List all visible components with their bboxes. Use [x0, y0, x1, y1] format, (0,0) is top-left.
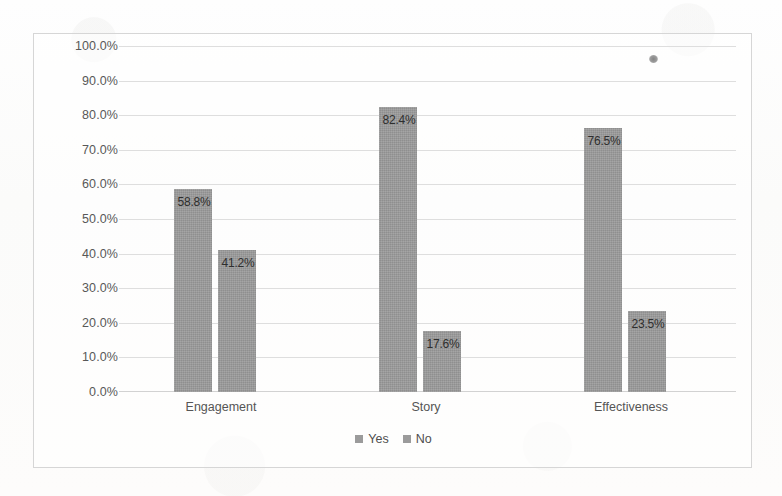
bar-effectiveness-yes[interactable]: 76.5%	[584, 128, 622, 392]
bar-group-effectiveness: 76.5% 23.5%	[529, 46, 734, 392]
x-axis-category-label: Engagement	[131, 400, 311, 414]
y-axis-tick-label: 70.0%	[42, 143, 118, 157]
x-axis-category-label: Story	[336, 400, 516, 414]
chart-container: 100.0% 90.0% 80.0% 70.0% 60.0% 50.0% 40.…	[33, 33, 752, 468]
legend-item-yes[interactable]: Yes	[355, 432, 388, 446]
bars-layer: 58.8% 41.2% 82.4% 17.6% 76	[119, 46, 736, 392]
y-axis-tick-label: 0.0%	[42, 385, 118, 399]
chart-legend: Yes No	[34, 432, 753, 446]
y-axis-tick-label: 90.0%	[42, 74, 118, 88]
bar-engagement-yes[interactable]: 58.8%	[174, 189, 212, 392]
bar-story-no[interactable]: 17.6%	[423, 331, 461, 392]
y-axis-tick-label: 100.0%	[42, 39, 118, 53]
plot-area: 58.8% 41.2% 82.4% 17.6% 76	[119, 46, 736, 392]
y-axis-tick-label: 60.0%	[42, 177, 118, 191]
y-axis-tick-label: 30.0%	[42, 281, 118, 295]
bar-value-label: 17.6%	[421, 337, 465, 351]
bar-story-yes[interactable]: 82.4%	[379, 107, 417, 392]
legend-item-label: Yes	[368, 432, 388, 446]
bar-group-engagement: 58.8% 41.2%	[119, 46, 324, 392]
y-axis-tick-label: 80.0%	[42, 108, 118, 122]
y-axis-tick-label: 20.0%	[42, 316, 118, 330]
legend-swatch-icon	[355, 435, 363, 443]
x-axis-category-label: Effectiveness	[541, 400, 721, 414]
legend-item-no[interactable]: No	[403, 432, 432, 446]
bar-value-label: 82.4%	[377, 113, 421, 127]
legend-item-label: No	[416, 432, 432, 446]
y-axis-tick-label: 40.0%	[42, 247, 118, 261]
bar-value-label: 58.8%	[172, 195, 216, 209]
bar-value-label: 76.5%	[582, 134, 626, 148]
scan-artifact-speck	[649, 55, 658, 63]
bar-value-label: 23.5%	[626, 317, 670, 331]
y-axis-tick-label: 10.0%	[42, 350, 118, 364]
bar-value-label: 41.2%	[216, 256, 260, 270]
x-axis: Engagement Story Effectiveness	[119, 400, 736, 426]
y-axis-tick-label: 50.0%	[42, 212, 118, 226]
chart-plot-wrapper: 100.0% 90.0% 80.0% 70.0% 60.0% 50.0% 40.…	[34, 34, 753, 469]
legend-swatch-icon	[403, 435, 411, 443]
y-axis: 100.0% 90.0% 80.0% 70.0% 60.0% 50.0% 40.…	[34, 34, 118, 469]
bar-group-story: 82.4% 17.6%	[324, 46, 529, 392]
bar-effectiveness-no[interactable]: 23.5%	[628, 311, 666, 392]
bar-engagement-no[interactable]: 41.2%	[218, 250, 256, 392]
